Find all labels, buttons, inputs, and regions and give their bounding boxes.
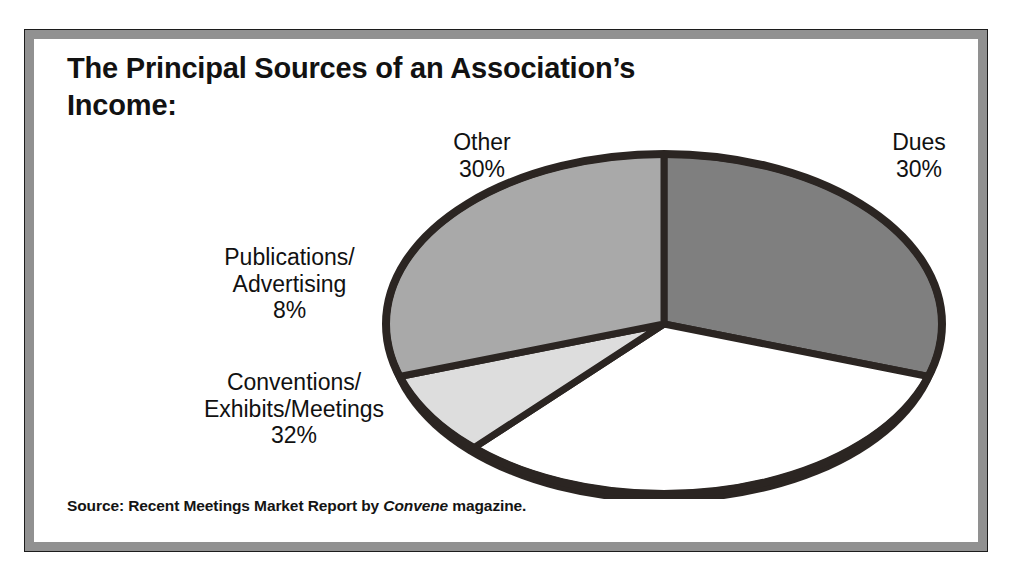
pie-chart (364, 139, 964, 499)
pie-label-publications: Publications/ Advertising 8% (182, 244, 397, 324)
page-title: The Principal Sources of an Association’… (67, 50, 857, 123)
pie-label-conventions: Conventions/ Exhibits/Meetings 32% (164, 369, 424, 449)
source-note: Source: Recent Meetings Market Report by… (67, 497, 526, 515)
source-suffix: magazine. (448, 497, 526, 514)
pie-label-dues: Dues 30% (854, 129, 978, 182)
source-publication: Convene (383, 497, 448, 514)
figure-canvas: The Principal Sources of an Association’… (34, 39, 978, 542)
figure-frame: The Principal Sources of an Association’… (25, 30, 987, 551)
source-prefix: Source: Recent Meetings Market Report by (67, 497, 383, 514)
pie-label-other: Other 30% (412, 129, 552, 182)
